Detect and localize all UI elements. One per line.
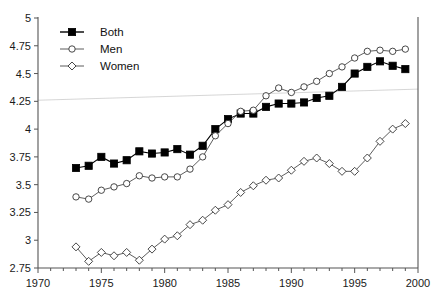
marker-open-circle	[288, 89, 294, 95]
marker-filled-square	[174, 146, 181, 153]
y-tick-label: 2.75	[10, 262, 31, 274]
marker-filled-square	[338, 83, 345, 90]
marker-open-diamond	[287, 166, 295, 174]
marker-filled-square	[326, 92, 333, 99]
marker-open-diamond	[68, 62, 76, 70]
y-tick-label: 4.75	[10, 40, 31, 52]
marker-open-circle	[339, 64, 345, 70]
marker-filled-square	[110, 160, 117, 167]
marker-open-circle	[212, 133, 218, 139]
marker-filled-square	[136, 148, 143, 155]
marker-open-diamond	[275, 174, 283, 182]
x-tick-label: 1975	[89, 277, 113, 289]
marker-filled-square	[313, 94, 320, 101]
marker-filled-square	[72, 164, 79, 171]
marker-filled-square	[186, 151, 193, 158]
legend-label-both: Both	[100, 26, 124, 38]
x-tick-label: 2000	[406, 277, 430, 289]
marker-filled-square	[402, 66, 409, 73]
marker-open-diamond	[313, 154, 321, 162]
marker-open-circle	[149, 175, 155, 181]
x-tick-labels: 1970197519801985199019952000	[26, 277, 430, 289]
x-tick-label: 1980	[152, 277, 176, 289]
marker-open-diamond	[97, 248, 105, 256]
y-tick-label: 3	[25, 234, 31, 246]
marker-open-circle	[111, 184, 117, 190]
marker-filled-square	[199, 142, 206, 149]
x-tick-label: 1990	[279, 277, 303, 289]
legend-label-women: Women	[100, 60, 139, 72]
marker-open-circle	[313, 78, 319, 84]
trend-line	[38, 89, 418, 100]
x-tick-label: 1985	[216, 277, 240, 289]
marker-filled-square	[364, 63, 371, 70]
y-tick-label: 4	[25, 123, 31, 135]
x-tick-label: 1970	[26, 277, 50, 289]
marker-open-circle	[85, 196, 91, 202]
marker-filled-square	[161, 149, 168, 156]
data-series-layer	[72, 46, 409, 265]
marker-open-diamond	[401, 120, 409, 128]
marker-open-circle	[275, 85, 281, 91]
marker-open-circle	[174, 174, 180, 180]
marker-open-diamond	[262, 176, 270, 184]
marker-open-circle	[73, 194, 79, 200]
y-tick-label: 3.5	[16, 179, 31, 191]
marker-open-circle	[123, 180, 129, 186]
marker-filled-square	[148, 150, 155, 157]
marker-open-circle	[187, 166, 193, 172]
marker-filled-square	[68, 28, 75, 35]
marker-open-circle	[326, 70, 332, 76]
y-tick-label: 3.75	[10, 151, 31, 163]
line-chart: 1970197519801985199019952000 2.7533.253.…	[0, 0, 438, 304]
marker-open-diamond	[110, 252, 118, 260]
y-tick-label: 3.25	[10, 206, 31, 218]
marker-filled-square	[85, 162, 92, 169]
marker-open-circle	[225, 120, 231, 126]
marker-open-diamond	[300, 157, 308, 165]
marker-filled-square	[212, 126, 219, 133]
marker-open-circle	[98, 187, 104, 193]
legend-label-men: Men	[100, 43, 122, 55]
marker-open-circle	[402, 46, 408, 52]
marker-filled-square	[288, 100, 295, 107]
marker-filled-square	[275, 100, 282, 107]
y-tick-label: 5	[25, 12, 31, 24]
marker-filled-square	[98, 153, 105, 160]
series-women	[72, 120, 409, 266]
marker-filled-square	[351, 70, 358, 77]
y-tick-label: 4.5	[16, 68, 31, 80]
chart-legend: BothMenWomen	[60, 26, 139, 72]
marker-filled-square	[300, 99, 307, 106]
marker-filled-square	[389, 62, 396, 69]
marker-filled-square	[262, 103, 269, 110]
marker-open-circle	[161, 174, 167, 180]
marker-open-diamond	[199, 216, 207, 224]
y-tick-labels: 2.7533.253.53.7544.254.54.755	[10, 12, 31, 274]
marker-open-circle	[136, 173, 142, 179]
marker-filled-square	[376, 58, 383, 65]
trend-line-layer	[38, 89, 418, 100]
marker-open-circle	[250, 107, 256, 113]
marker-open-circle	[377, 47, 383, 53]
marker-open-diamond	[123, 248, 131, 256]
chart-container: 1970197519801985199019952000 2.7533.253.…	[0, 0, 438, 304]
marker-open-circle	[351, 55, 357, 61]
x-tick-label: 1995	[342, 277, 366, 289]
marker-open-circle	[199, 154, 205, 160]
marker-open-diamond	[249, 182, 257, 190]
marker-open-circle	[389, 48, 395, 54]
y-tick-label: 4.25	[10, 95, 31, 107]
marker-open-circle	[301, 84, 307, 90]
marker-open-circle	[237, 108, 243, 114]
marker-filled-square	[123, 157, 130, 164]
marker-open-diamond	[338, 167, 346, 175]
marker-open-diamond	[325, 160, 333, 168]
marker-open-diamond	[161, 235, 169, 243]
marker-open-circle	[263, 93, 269, 99]
marker-open-circle	[364, 48, 370, 54]
marker-open-diamond	[211, 206, 219, 214]
marker-open-circle	[69, 46, 75, 52]
